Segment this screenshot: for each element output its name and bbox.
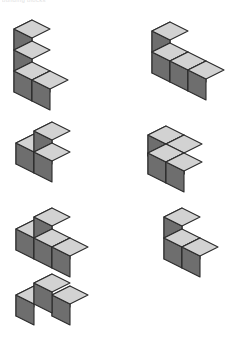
figure-shape-3 [14,120,72,184]
top-caption: building blocks [2,0,46,3]
figure-shape-4 [146,124,204,194]
worksheet-canvas: building blocks [0,0,246,347]
figure-shape-6 [162,206,220,279]
figure-L-shape-two-tall-two-long [150,20,226,102]
figure-shape-7 [14,272,90,327]
figure-shape-1 [12,18,70,112]
figure-vertical-column-with-foot [12,18,70,112]
figure-shape-2 [150,20,226,102]
figure-shape-5 [14,206,90,279]
figure-flat-s-zigzag [146,124,204,194]
figure-two-tall-with-front-foot [162,206,220,279]
figure-two-base-one-on-right [14,120,72,184]
figure-diagonal-three-corner [14,272,90,327]
figure-three-row-one-on-middle [14,206,90,279]
